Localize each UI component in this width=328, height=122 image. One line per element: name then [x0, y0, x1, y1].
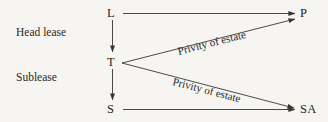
node-label-L: L — [107, 7, 115, 20]
node-label-P: P — [300, 7, 307, 20]
node-label-S: S — [107, 103, 114, 116]
node-label-SA: SA — [300, 103, 317, 116]
side-label-sublease: Sublease — [16, 72, 57, 84]
diagram-canvas — [0, 0, 328, 122]
privity-of-estate-diagram: L P T S SA Head lease Sublease Privity o… — [0, 0, 328, 122]
side-label-head-lease: Head lease — [16, 27, 66, 39]
node-label-T: T — [107, 56, 115, 69]
